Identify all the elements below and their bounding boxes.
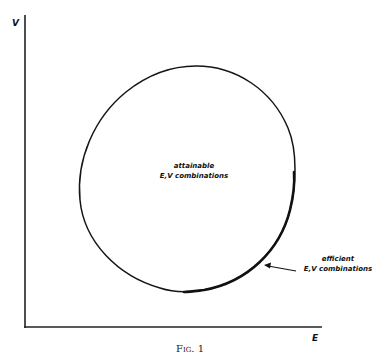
efficient-frontier-label: efficient E,V combinations [298,254,378,274]
attainable-region-label: attainable E,V combinations [134,161,254,181]
figure: V E attainable E,V combinations efficien… [0,0,383,360]
arrowhead-icon [264,263,271,269]
figure-caption: Fig. 1 [176,343,204,354]
attainable-label-line2: E,V combinations [134,171,254,181]
attainable-label-line1: attainable [134,161,254,171]
efficient-pointer-line [268,266,296,271]
efficient-label-line1: efficient [298,254,378,264]
efficient-label-line2: E,V combinations [298,264,378,274]
y-axis-label: V [12,19,19,28]
efficient-frontier-segment [184,172,294,292]
x-axis-label: E [312,334,318,343]
